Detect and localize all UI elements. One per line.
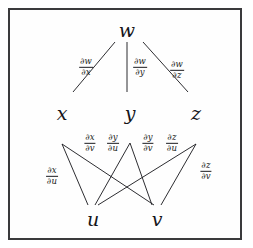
edge-label-dz-dv: ∂z∂v <box>200 161 211 181</box>
fraction-numerator: ∂y <box>107 133 119 144</box>
edge-label-dw-dz: ∂w∂z <box>170 60 184 80</box>
fraction-numerator: ∂z <box>200 161 211 172</box>
node-v: v <box>152 210 163 229</box>
diagram-canvas: wxyzuv ∂w∂x∂w∂y∂w∂z∂x∂v∂y∂u∂y∂v∂z∂u∂x∂u∂… <box>0 0 253 248</box>
fraction-denominator: ∂u <box>166 144 178 154</box>
fraction-denominator: ∂x <box>79 68 93 78</box>
node-y: y <box>125 104 136 123</box>
fraction-numerator: ∂w <box>133 57 147 68</box>
fraction-denominator: ∂u <box>46 177 58 187</box>
edge-label-dw-dx: ∂w∂x <box>79 57 93 77</box>
edge-label-dy-dv: ∂y∂v <box>142 133 153 153</box>
edge-label-dy-du: ∂y∂u <box>107 133 119 153</box>
fraction-denominator: ∂u <box>107 144 119 154</box>
node-x: x <box>57 104 68 123</box>
edge-label-dx-du: ∂x∂u <box>46 166 58 186</box>
node-z: z <box>191 104 201 123</box>
fraction-numerator: ∂w <box>170 60 184 71</box>
fraction-denominator: ∂v <box>142 144 153 154</box>
node-w: w <box>119 21 135 40</box>
fraction-denominator: ∂z <box>170 71 184 81</box>
edge-label-dx-dv: ∂x∂v <box>84 133 95 153</box>
fraction-numerator: ∂x <box>84 133 95 144</box>
fraction-numerator: ∂y <box>142 133 153 144</box>
edge-label-dw-dy: ∂w∂y <box>133 57 147 77</box>
fraction-numerator: ∂w <box>79 57 93 68</box>
fraction-denominator: ∂v <box>200 172 211 182</box>
fraction-numerator: ∂z <box>166 133 178 144</box>
fraction-denominator: ∂v <box>84 144 95 154</box>
fraction-denominator: ∂y <box>133 68 147 78</box>
edge-label-dz-du: ∂z∂u <box>166 133 178 153</box>
node-u: u <box>87 210 99 229</box>
fraction-numerator: ∂x <box>46 166 58 177</box>
